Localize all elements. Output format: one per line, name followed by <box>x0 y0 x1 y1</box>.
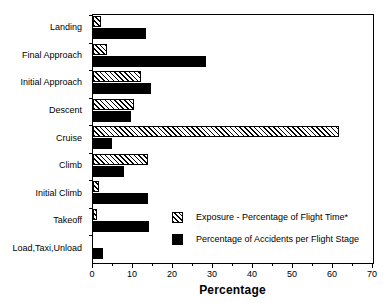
y-axis-label-load-taxi-unload: Load,Taxi,Unload <box>12 242 82 255</box>
bar-accidents <box>93 111 131 122</box>
bar-exposure <box>93 71 141 82</box>
x-axis-tick-minor <box>232 263 233 266</box>
bar-group <box>93 98 373 126</box>
y-axis-category-labels: LandingFinal ApproachInitial ApproachDes… <box>0 14 88 262</box>
bar-accidents <box>93 28 146 39</box>
bar-accidents <box>93 193 148 204</box>
y-axis-label-cruise: Cruise <box>56 132 82 145</box>
legend-label-exposure: Exposure - Percentage of Flight Time* <box>196 210 348 225</box>
y-axis-label-final-approach: Final Approach <box>22 49 82 62</box>
y-axis-tick <box>89 98 93 99</box>
y-axis-tick <box>89 43 93 44</box>
bar-group <box>93 125 373 153</box>
bar-group <box>93 153 373 181</box>
legend-label-accidents: Percentage of Accidents per Flight Stage <box>196 232 359 247</box>
bar-group <box>93 70 373 98</box>
x-axis-tick-label: 10 <box>117 268 147 280</box>
y-axis-label-takeoff: Takeoff <box>53 214 82 227</box>
legend-item-accidents: Percentage of Accidents per Flight Stage <box>172 232 370 248</box>
bar-accidents <box>93 56 206 67</box>
x-axis-tick-label: 30 <box>197 268 227 280</box>
y-axis-label-initial-climb: Initial Climb <box>35 187 82 200</box>
y-axis-tick <box>89 180 93 181</box>
bar-group <box>93 180 373 208</box>
x-axis-tick-label: 0 <box>77 268 107 280</box>
chart-legend: Exposure - Percentage of Flight Time* Pe… <box>172 208 370 254</box>
bar-exposure <box>93 126 339 137</box>
bar-exposure <box>93 16 101 27</box>
x-axis-tick-labels: 010203040506070 <box>0 268 387 282</box>
y-axis-tick <box>89 70 93 71</box>
x-axis-title: Percentage <box>92 283 373 297</box>
bar-exposure <box>93 99 134 110</box>
x-axis-tick-minor <box>272 263 273 266</box>
y-axis-tick <box>89 208 93 209</box>
x-axis-tick-minor <box>352 263 353 266</box>
bar-exposure <box>93 181 99 192</box>
bar-exposure <box>93 154 148 165</box>
bar-exposure <box>93 209 97 220</box>
bar-accidents <box>93 83 151 94</box>
bar-accidents <box>93 138 112 149</box>
y-axis-label-descent: Descent <box>49 104 82 117</box>
y-axis-label-climb: Climb <box>59 159 82 172</box>
bar-group <box>93 43 373 71</box>
x-axis-tick-minor <box>112 263 113 266</box>
x-axis-tick-label: 70 <box>357 268 387 280</box>
y-axis-label-initial-approach: Initial Approach <box>20 76 82 89</box>
bar-accidents <box>93 248 103 259</box>
x-axis-tick-label: 60 <box>317 268 347 280</box>
y-axis-tick <box>89 125 93 126</box>
legend-swatch-accidents-icon <box>172 234 183 245</box>
legend-item-exposure: Exposure - Percentage of Flight Time* <box>172 210 370 226</box>
x-axis-tick-label: 20 <box>157 268 187 280</box>
x-axis-tick-label: 40 <box>237 268 267 280</box>
bar-exposure <box>93 44 107 55</box>
legend-swatch-exposure-icon <box>172 212 183 223</box>
bar-accidents <box>93 166 124 177</box>
x-axis-tick-minor <box>312 263 313 266</box>
bar-group <box>93 15 373 43</box>
y-axis-tick <box>89 153 93 154</box>
bar-accidents <box>93 221 149 232</box>
chart-figure: LandingFinal ApproachInitial ApproachDes… <box>0 0 387 303</box>
x-axis-tick-label: 50 <box>277 268 307 280</box>
y-axis-tick <box>89 15 93 16</box>
y-axis-label-landing: Landing <box>50 21 82 34</box>
x-axis-tick-minor <box>152 263 153 266</box>
x-axis-tick-minor <box>192 263 193 266</box>
y-axis-tick <box>89 235 93 236</box>
